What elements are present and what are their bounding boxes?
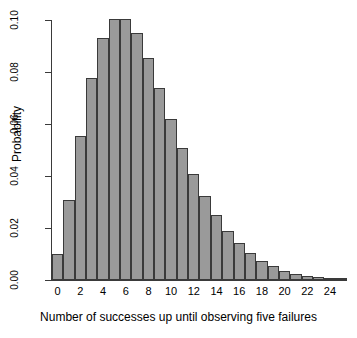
bar [290,274,301,281]
bar [199,196,210,280]
bar [109,19,120,280]
bar [143,58,154,280]
bar-series [52,20,347,280]
x-axis-tick-label: 18 [256,286,268,297]
x-axis-tick-label: 24 [324,286,336,297]
bar [324,278,335,280]
y-axis-tick-mark [45,280,51,281]
y-axis-tick-label: 0.06 [10,97,20,152]
x-axis-tick-label: 20 [278,286,290,297]
x-axis-tick-label: 2 [77,286,83,297]
bar [234,243,245,280]
y-axis-tick-label: 0.10 [10,0,20,48]
x-axis-tick-label: 12 [188,286,200,297]
x-axis-tick-label: 14 [210,286,222,297]
y-axis-tick-mark [45,72,51,73]
bar [245,253,256,280]
x-axis-tick-label: 22 [301,286,313,297]
y-axis-tick-mark [45,20,51,21]
bar [131,33,142,280]
chart-figure: Probability 0.000.020.040.060.080.10 024… [0,0,357,338]
bar [86,78,97,280]
bar [177,148,188,280]
bar [120,19,131,280]
plot-area [52,20,347,280]
y-axis-tick-mark [45,228,51,229]
bar [313,277,324,280]
bar [154,88,165,280]
y-axis-tick-mark [45,124,51,125]
x-axis-tick-label: 10 [165,286,177,297]
bar [336,278,347,280]
bar [63,200,74,280]
y-axis-tick-label: 0.04 [10,149,20,204]
bar [256,261,267,280]
x-axis-tick-label: 6 [123,286,129,297]
bar [188,174,199,280]
x-axis-tick-label: 8 [145,286,151,297]
bar [279,271,290,280]
x-axis-line [52,280,347,281]
y-axis-tick-mark [45,176,51,177]
bar [222,231,233,280]
bar [52,254,63,280]
y-axis-tick-label: 0.02 [10,201,20,256]
bar [165,119,176,280]
bar [97,38,108,280]
x-axis-tick-label: 4 [100,286,106,297]
bar [75,136,86,280]
y-axis-tick-label: 0.08 [10,45,20,100]
y-axis-tick-label: 0.00 [10,253,20,308]
x-axis-title: Number of successes up until observing f… [0,310,357,324]
x-axis-tick-label: 0 [55,286,61,297]
bar [211,215,222,280]
bar [302,276,313,280]
x-axis-tick-label: 16 [233,286,245,297]
bar [268,266,279,280]
